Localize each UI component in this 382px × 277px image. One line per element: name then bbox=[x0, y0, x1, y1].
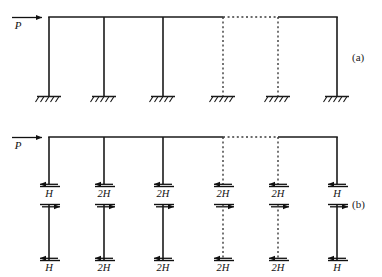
support-fixed-5-a bbox=[265, 97, 291, 103]
shear-label-upper-6-b: H bbox=[332, 188, 342, 199]
shear-upper-1-b: H bbox=[40, 184, 60, 198]
shear-label-upper-2-b: 2H bbox=[98, 188, 112, 199]
shear-lower-top-1-b bbox=[40, 205, 60, 207]
panel-label-a: (a) bbox=[352, 51, 365, 64]
support-fixed-4-a bbox=[210, 97, 236, 103]
panel-b: P H 2H 2H bbox=[12, 137, 365, 273]
base-reaction-5-b: 2H bbox=[269, 258, 289, 273]
base-reaction-1-b: H bbox=[40, 258, 60, 273]
applied-load-p-b: P bbox=[12, 138, 42, 152]
frame-diagram-figure: P bbox=[0, 0, 382, 277]
base-reaction-label-5-b: 2H bbox=[272, 262, 286, 273]
base-reaction-label-3-b: 2H bbox=[157, 262, 171, 273]
shear-upper-5-b: 2H bbox=[269, 184, 289, 198]
panel-label-b: (b) bbox=[352, 198, 365, 211]
base-reaction-3-b: 2H bbox=[154, 258, 174, 273]
shear-upper-2-b: 2H bbox=[95, 184, 115, 198]
base-reaction-label-1-b: H bbox=[44, 262, 54, 273]
shear-lower-top-2-b bbox=[95, 205, 115, 207]
panel-a: P bbox=[12, 17, 365, 102]
base-reaction-6-b: H bbox=[328, 258, 348, 273]
support-fixed-6-a bbox=[324, 97, 350, 103]
shear-upper-3-b: 2H bbox=[154, 184, 174, 198]
shear-label-upper-5-b: 2H bbox=[272, 188, 286, 199]
shear-lower-top-5-b bbox=[269, 205, 289, 207]
shear-lower-top-3-b bbox=[154, 205, 174, 207]
load-label-p-a: P bbox=[14, 19, 22, 31]
base-reaction-label-6-b: H bbox=[332, 262, 342, 273]
shear-lower-top-6-b bbox=[328, 205, 348, 207]
shear-label-upper-3-b: 2H bbox=[157, 188, 171, 199]
base-reaction-label-4-b: 2H bbox=[217, 262, 231, 273]
shear-upper-4-b: 2H bbox=[214, 184, 234, 198]
applied-load-p-a: P bbox=[12, 18, 42, 32]
shear-label-upper-4-b: 2H bbox=[217, 188, 231, 199]
shear-lower-top-4-b bbox=[214, 205, 234, 207]
shear-label-upper-1-b: H bbox=[44, 188, 54, 199]
shear-upper-6-b: H bbox=[328, 184, 348, 198]
base-reaction-2-b: 2H bbox=[95, 258, 115, 273]
load-label-p-b: P bbox=[14, 139, 22, 151]
base-reaction-4-b: 2H bbox=[214, 258, 234, 273]
support-fixed-3-a bbox=[150, 97, 176, 103]
support-fixed-2-a bbox=[91, 97, 117, 103]
base-reaction-label-2-b: 2H bbox=[98, 262, 112, 273]
support-fixed-1-a bbox=[36, 97, 62, 103]
